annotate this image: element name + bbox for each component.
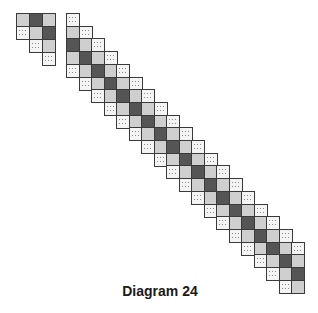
diagonal-band-cell-dotted xyxy=(279,229,293,243)
small-fragment-cell-dotted xyxy=(42,52,56,66)
diagram-grid xyxy=(0,0,318,313)
diagonal-band-cell-dotted xyxy=(141,140,155,154)
diagonal-band-cell-light xyxy=(116,102,130,116)
diagonal-band-cell-dark xyxy=(216,191,230,205)
diagonal-band-cell-dotted xyxy=(266,267,280,281)
small-fragment-cell-dotted xyxy=(16,26,30,40)
diagonal-band-cell-dark xyxy=(291,267,305,281)
diagonal-band-cell-dark xyxy=(191,165,205,179)
diagonal-band-cell-light xyxy=(66,51,80,65)
diagram-caption: Diagram 24 xyxy=(0,283,318,299)
diagonal-band-cell-dark xyxy=(116,89,130,103)
diagonal-band-cell-dark xyxy=(166,140,180,154)
diagonal-band-cell-light xyxy=(141,127,155,141)
diagonal-band-cell-dotted xyxy=(166,165,180,179)
diagonal-band-cell-light xyxy=(266,254,280,268)
diagonal-band-cell-dotted xyxy=(216,216,230,230)
diagonal-band-cell-dotted xyxy=(141,89,155,103)
small-fragment-cell-dark xyxy=(42,26,56,40)
diagonal-band-cell-dark xyxy=(66,38,80,52)
diagonal-band-cell-dotted xyxy=(216,165,230,179)
diagonal-band-cell-dotted xyxy=(91,89,105,103)
diagonal-band-cell-dark xyxy=(241,216,255,230)
diagonal-band-cell-dotted xyxy=(104,51,118,65)
diagonal-band-cell-dotted xyxy=(66,64,80,78)
small-fragment-cell-light xyxy=(29,26,43,40)
diagonal-band-cell-dark xyxy=(91,64,105,78)
diagonal-band-cell-light xyxy=(91,51,105,65)
diagonal-band-cell-dotted xyxy=(191,140,205,154)
diagonal-band-cell-light xyxy=(216,178,230,192)
diagonal-band-cell-dotted xyxy=(116,64,130,78)
diagonal-band-cell-dotted xyxy=(66,13,80,27)
diagonal-band-cell-light xyxy=(266,229,280,243)
diagonal-band-cell-dotted xyxy=(154,102,168,116)
diagonal-band-cell-light xyxy=(166,127,180,141)
diagonal-band-cell-light xyxy=(291,254,305,268)
diagonal-band-cell-light xyxy=(191,178,205,192)
caption-text: Diagram 24 xyxy=(122,283,197,299)
small-fragment-cell-light xyxy=(16,13,30,27)
diagonal-band-cell-light xyxy=(141,102,155,116)
diagonal-band-cell-light xyxy=(241,229,255,243)
diagonal-band-cell-dotted xyxy=(91,38,105,52)
diagonal-band-cell-dotted xyxy=(229,178,243,192)
diagonal-band-cell-dotted xyxy=(179,127,193,141)
diagonal-band-cell-dotted xyxy=(116,115,130,129)
small-fragment-cell-light xyxy=(42,39,56,53)
small-fragment-cell-light xyxy=(42,13,56,27)
diagonal-band-cell-dotted xyxy=(241,191,255,205)
diagonal-band-cell-dotted xyxy=(266,216,280,230)
small-fragment-cell-dotted xyxy=(29,39,43,53)
diagonal-band-cell-dotted xyxy=(191,191,205,205)
diagonal-band-cell-dotted xyxy=(241,242,255,256)
small-fragment-cell-dark xyxy=(29,13,43,27)
